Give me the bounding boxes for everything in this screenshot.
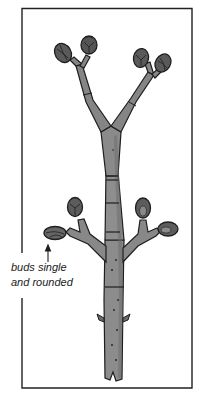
upper-branches bbox=[70, 55, 162, 132]
bud-lower-right-side bbox=[158, 222, 178, 236]
bud-top-left-inner bbox=[81, 36, 97, 54]
annotation-label-line-2: and rounded bbox=[11, 275, 73, 289]
bud-lower-right-upper bbox=[136, 198, 151, 218]
annotation-label-line-1: buds single bbox=[11, 260, 67, 274]
twig-illustration: buds single and rounded bbox=[0, 0, 206, 403]
bud-lower-left-upper bbox=[68, 198, 83, 217]
bud-lower-left-side bbox=[44, 227, 66, 240]
